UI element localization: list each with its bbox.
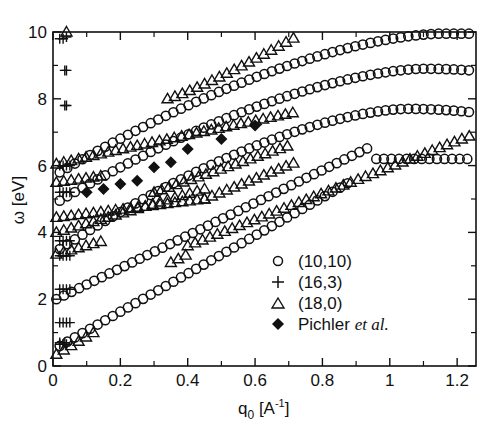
triangle-point [288, 33, 299, 43]
y-tick-label: 4 [38, 223, 47, 242]
x-tick-label: 0 [48, 371, 57, 390]
diamond-point [114, 178, 126, 190]
diamond-point [98, 183, 110, 195]
plus-marker-icon [272, 276, 284, 288]
plot-markers [51, 27, 475, 359]
svg-text:Pichler et al.: Pichler et al. [298, 315, 389, 334]
legend-item-16-3: (16,3) [272, 273, 342, 292]
y-tick-label: 10 [28, 23, 47, 42]
diamond-marker-icon [272, 318, 284, 330]
x-tick-labels: 00.20.40.60.811.2 [48, 371, 469, 390]
x-tick-label: 0.8 [311, 371, 335, 390]
dispersion-chart: 00.20.40.60.811.2 0246810 ω [eV] q0 [A-1… [0, 0, 485, 429]
legend-item-10-10: (10,10) [274, 252, 352, 271]
diamond-point [148, 161, 160, 173]
y-tick-label: 2 [38, 290, 47, 309]
plus-point [61, 65, 71, 75]
x-tick-label: 0.2 [109, 371, 133, 390]
plus-point [61, 100, 71, 110]
y-tick-label: 8 [38, 90, 47, 109]
diamond-point [131, 175, 143, 187]
svg-text:(16,3): (16,3) [298, 273, 342, 292]
legend-item-18-0: (18,0) [272, 294, 342, 313]
x-axis-title: q0 [A-1] [238, 397, 289, 422]
svg-text:(18,0): (18,0) [298, 294, 342, 313]
x-tick-label: 1 [385, 371, 394, 390]
diamond-point [215, 133, 227, 145]
svg-text:(10,10): (10,10) [298, 252, 352, 271]
x-tick-label: 1.2 [445, 371, 469, 390]
y-tick-labels: 0246810 [28, 23, 47, 376]
x-tick-label: 0.4 [176, 371, 200, 390]
diamond-point [165, 156, 177, 168]
circle-point [362, 144, 371, 153]
x-tick-label: 0.6 [243, 371, 267, 390]
y-axis-title: ω [eV] [9, 176, 28, 224]
y-tick-label: 6 [38, 157, 47, 176]
y-tick-label: 0 [38, 357, 47, 376]
legend: (10,10) (16,3) (18,0) Pichler et al. [272, 252, 389, 334]
triangle-point [180, 250, 191, 260]
circle-marker-icon [274, 257, 283, 266]
legend-item-pichler: Pichler et al. [272, 315, 389, 334]
diamond-point [182, 143, 194, 155]
triangle-marker-icon [272, 298, 284, 308]
